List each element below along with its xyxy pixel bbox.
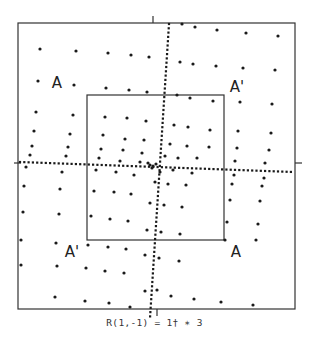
- axis-dot: [163, 96, 165, 98]
- data-dot: [207, 145, 210, 148]
- data-dot: [83, 299, 86, 302]
- axis-dot: [164, 87, 166, 89]
- data-dot: [66, 145, 69, 148]
- data-dot: [32, 129, 35, 132]
- axis-dot: [151, 285, 153, 287]
- data-dot: [114, 170, 117, 173]
- data-dot: [108, 217, 111, 220]
- figure-plot: AA'A'A: [0, 0, 309, 349]
- axis-dot: [158, 182, 160, 184]
- data-dot: [225, 220, 228, 223]
- axis-dot: [58, 162, 60, 164]
- axis-dot: [79, 163, 81, 165]
- axis-dot: [161, 135, 163, 137]
- axis-dot: [164, 83, 166, 85]
- data-dot: [53, 295, 56, 298]
- axis-dot: [195, 167, 197, 169]
- axis-dot: [88, 163, 90, 165]
- axis-dot: [163, 105, 165, 107]
- axis-dot: [75, 163, 77, 165]
- data-dot: [140, 151, 143, 154]
- axis-dot: [164, 79, 166, 81]
- data-dot: [238, 100, 241, 103]
- axis-dot: [174, 167, 176, 169]
- data-dot: [126, 219, 129, 222]
- data-dot: [55, 264, 58, 267]
- data-dot: [230, 182, 233, 185]
- data-dot: [232, 173, 235, 176]
- axis-dot: [156, 204, 158, 206]
- data-dot: [270, 102, 273, 105]
- axis-dot: [157, 186, 159, 188]
- data-dot: [145, 228, 148, 231]
- data-dot: [215, 28, 218, 31]
- axis-dot: [118, 165, 120, 167]
- axis-dot: [155, 221, 157, 223]
- data-dot: [180, 22, 183, 25]
- axis-dot: [157, 166, 159, 168]
- axis-dot: [159, 165, 161, 167]
- axis-dot: [212, 168, 214, 170]
- axis-dot: [204, 168, 206, 170]
- axis-dot: [150, 307, 152, 309]
- axis-dot: [187, 167, 189, 169]
- data-dot: [147, 55, 150, 58]
- axis-dot: [163, 92, 165, 94]
- axis-dot: [156, 208, 158, 210]
- axis-dot: [49, 162, 51, 164]
- data-dot: [84, 266, 87, 269]
- axis-dot: [157, 195, 159, 197]
- axis-dot: [66, 163, 68, 165]
- axis-dot: [167, 36, 169, 38]
- data-dot: [166, 182, 169, 185]
- data-dot: [148, 201, 151, 204]
- data-dot: [24, 165, 27, 168]
- data-dot: [171, 168, 174, 171]
- axis-dot: [251, 169, 253, 171]
- axis-dot: [109, 164, 111, 166]
- axis-dot: [151, 290, 153, 292]
- axis-dot: [159, 161, 161, 163]
- data-dot: [168, 142, 171, 145]
- data-dot: [180, 205, 183, 208]
- axis-dot: [114, 164, 116, 166]
- axis-dot: [156, 212, 158, 214]
- data-dot: [178, 60, 181, 63]
- data-dot: [143, 253, 146, 256]
- data-dot: [99, 147, 102, 150]
- data-dot: [145, 90, 148, 93]
- data-dot: [103, 115, 106, 118]
- data-dot: [251, 303, 254, 306]
- data-dot: [211, 99, 214, 102]
- data-dot: [58, 187, 61, 190]
- axis-dot: [166, 53, 168, 55]
- data-dot: [60, 170, 63, 173]
- axis-dot: [23, 161, 25, 163]
- data-dot: [176, 156, 179, 159]
- data-dot: [150, 166, 153, 169]
- data-dot: [162, 203, 165, 206]
- data-dot: [269, 131, 272, 134]
- axis-dot: [286, 171, 288, 173]
- axis-dot: [96, 164, 98, 166]
- axis-dot: [83, 163, 85, 165]
- data-dot: [71, 113, 74, 116]
- data-dot: [228, 198, 231, 201]
- data-dot: [235, 146, 238, 149]
- data-dot: [193, 25, 196, 28]
- data-dot: [129, 53, 132, 56]
- axis-dot: [166, 57, 168, 59]
- axis-dot: [19, 161, 21, 163]
- data-dot: [157, 256, 160, 259]
- axis-dot: [157, 191, 159, 193]
- axis-dot: [191, 167, 193, 169]
- axis-dot: [160, 139, 162, 141]
- data-dot: [132, 173, 135, 176]
- axis-dot: [255, 170, 257, 172]
- axis-dot: [167, 44, 169, 46]
- data-dot: [153, 180, 156, 183]
- axis-dot: [152, 264, 154, 266]
- axis-dot: [167, 32, 169, 34]
- axis-dot: [165, 75, 167, 77]
- axis-dot: [178, 167, 180, 169]
